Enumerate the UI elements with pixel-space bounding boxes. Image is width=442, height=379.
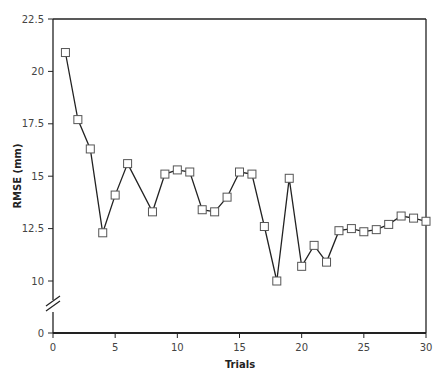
- square-marker-icon: [148, 208, 156, 216]
- square-marker-icon: [111, 191, 119, 199]
- square-marker-icon: [347, 225, 355, 233]
- series-line: [65, 53, 426, 282]
- x-tick-label: 20: [295, 342, 308, 353]
- square-marker-icon: [260, 223, 268, 231]
- square-marker-icon: [236, 168, 244, 176]
- square-marker-icon: [99, 229, 107, 237]
- square-marker-icon: [273, 277, 281, 285]
- square-marker-icon: [323, 258, 331, 266]
- square-marker-icon: [61, 49, 69, 57]
- square-marker-icon: [248, 170, 256, 178]
- square-marker-icon: [186, 168, 194, 176]
- y-tick-label: 17.5: [22, 118, 44, 129]
- square-marker-icon: [335, 227, 343, 235]
- x-tick-label: 15: [233, 342, 246, 353]
- square-marker-icon: [223, 193, 231, 201]
- y-axis-title: RMSE (mm): [12, 143, 23, 208]
- data-series: [61, 49, 430, 285]
- square-marker-icon: [298, 262, 306, 270]
- break-slash: [46, 301, 60, 311]
- y-tick-label: 12.5: [22, 223, 44, 234]
- y-tick-label: 15: [31, 171, 44, 182]
- y-tick-label: 22.5: [22, 14, 44, 25]
- x-axis: 051015202530: [50, 333, 433, 353]
- square-marker-icon: [86, 145, 94, 153]
- square-marker-icon: [161, 170, 169, 178]
- square-marker-icon: [372, 226, 380, 234]
- x-tick-label: 0: [50, 342, 56, 353]
- square-marker-icon: [124, 160, 132, 168]
- square-marker-icon: [410, 214, 418, 222]
- x-tick-label: 30: [420, 342, 433, 353]
- square-marker-icon: [422, 217, 430, 225]
- x-axis-title: Trials: [225, 359, 255, 370]
- square-marker-icon: [285, 174, 293, 182]
- rmse-line-chart: 01012.51517.52022.5 051015202530 Trials …: [0, 0, 442, 379]
- x-tick-label: 5: [112, 342, 118, 353]
- square-marker-icon: [211, 208, 219, 216]
- y-tick-label: 10: [31, 276, 44, 287]
- square-marker-icon: [385, 220, 393, 228]
- square-marker-icon: [173, 166, 181, 174]
- square-marker-icon: [74, 116, 82, 124]
- x-tick-label: 10: [171, 342, 184, 353]
- x-tick-label: 25: [357, 342, 370, 353]
- square-marker-icon: [198, 206, 206, 214]
- y-axis: 01012.51517.52022.5: [22, 14, 53, 339]
- square-marker-icon: [360, 228, 368, 236]
- square-marker-icon: [310, 241, 318, 249]
- y-tick-label: 20: [31, 66, 44, 77]
- y-tick-label: 0: [38, 328, 44, 339]
- square-marker-icon: [397, 212, 405, 220]
